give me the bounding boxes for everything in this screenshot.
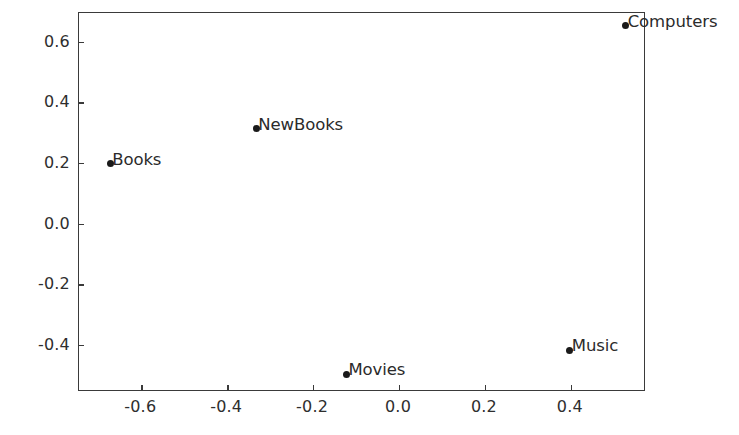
- x-axis-tick-label: 0.0: [385, 397, 411, 416]
- x-axis-tick-label: -0.6: [124, 397, 156, 416]
- y-axis-tick-mark: [78, 102, 84, 103]
- x-axis-tick-mark: [313, 385, 314, 391]
- x-axis-tick-mark: [571, 385, 572, 391]
- y-axis-tick-label: 0.0: [44, 213, 70, 232]
- x-axis-tick-label: 0.2: [471, 397, 497, 416]
- y-axis-tick-label: 0.4: [44, 92, 70, 111]
- x-axis-tick-label: 0.4: [557, 397, 583, 416]
- y-axis-tick-label: 0.2: [44, 153, 70, 172]
- x-axis-tick-mark: [227, 385, 228, 391]
- x-axis-tick-label: -0.4: [210, 397, 242, 416]
- scatter-plot-figure: 0.60.40.20.0-0.2-0.4 -0.6-0.4-0.20.00.20…: [0, 0, 739, 435]
- y-axis-tick-label: -0.4: [38, 335, 70, 354]
- x-axis-tick-label: -0.2: [296, 397, 328, 416]
- y-axis-tick-mark: [78, 345, 84, 346]
- y-axis-tick-mark: [78, 224, 84, 225]
- y-axis-tick-mark: [78, 284, 84, 285]
- x-axis-tick-mark: [485, 385, 486, 391]
- y-axis-tick-label: 0.6: [44, 31, 70, 50]
- y-axis-tick-label: -0.2: [38, 274, 70, 293]
- data-point-label: Music: [572, 336, 618, 355]
- data-point-label: Computers: [628, 11, 718, 30]
- x-axis-tick-mark: [399, 385, 400, 391]
- plot-area: [78, 12, 645, 391]
- x-axis-tick-mark: [141, 385, 142, 391]
- y-axis-tick-mark: [78, 42, 84, 43]
- data-point-label: Books: [112, 149, 161, 168]
- data-point-label: Movies: [348, 360, 405, 379]
- y-axis-tick-labels: 0.60.40.20.0-0.2-0.4: [0, 0, 70, 435]
- data-point-label: NewBooks: [258, 114, 343, 133]
- y-axis-tick-mark: [78, 163, 84, 164]
